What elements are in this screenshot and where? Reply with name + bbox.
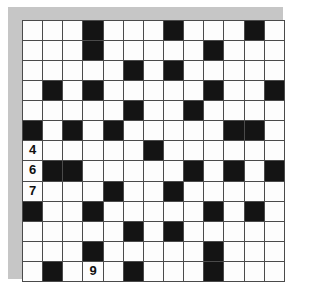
grid-cell-open[interactable] — [103, 61, 123, 81]
grid-cell-open[interactable] — [143, 261, 163, 281]
grid-cell-open[interactable] — [23, 81, 43, 101]
grid-cell-open[interactable] — [244, 181, 264, 201]
grid-cell-open[interactable] — [23, 61, 43, 81]
grid-cell-open[interactable] — [63, 181, 83, 201]
grid-cell-open[interactable] — [103, 221, 123, 241]
grid-cell-open[interactable] — [184, 121, 204, 141]
grid-cell-open[interactable] — [204, 121, 224, 141]
grid-cell-open[interactable] — [224, 81, 244, 101]
grid-cell-open[interactable] — [143, 161, 163, 181]
grid-cell-open[interactable] — [163, 101, 183, 121]
grid-cell-open[interactable] — [184, 141, 204, 161]
grid-cell-open[interactable] — [244, 241, 264, 261]
grid-cell-open[interactable] — [63, 201, 83, 221]
grid-cell-open[interactable] — [264, 21, 284, 41]
grid-cell-open[interactable] — [103, 241, 123, 261]
grid-cell-open[interactable] — [244, 81, 264, 101]
grid-cell-open[interactable] — [63, 41, 83, 61]
grid-cell-open[interactable] — [224, 241, 244, 261]
grid-cell-open[interactable] — [264, 221, 284, 241]
grid-cell-open[interactable] — [264, 41, 284, 61]
grid-cell-open[interactable] — [143, 61, 163, 81]
grid-cell-open[interactable] — [184, 61, 204, 81]
grid-cell-open[interactable] — [123, 81, 143, 101]
grid-cell-open[interactable] — [43, 181, 63, 201]
grid-cell-open[interactable] — [184, 21, 204, 41]
grid-cell-open[interactable] — [204, 61, 224, 81]
grid-cell-open[interactable] — [244, 61, 264, 81]
grid-cell-open[interactable] — [63, 221, 83, 241]
grid-cell-open[interactable] — [83, 181, 103, 201]
grid-cell-open[interactable] — [184, 81, 204, 101]
grid-cell-open[interactable] — [63, 81, 83, 101]
grid-cell-open[interactable] — [123, 141, 143, 161]
grid-cell-open[interactable]: 9 — [83, 261, 103, 281]
grid-cell-open[interactable] — [23, 21, 43, 41]
grid-cell-open[interactable] — [83, 221, 103, 241]
grid-cell-open[interactable] — [224, 141, 244, 161]
grid-cell-open[interactable] — [23, 221, 43, 241]
grid-cell-open[interactable] — [83, 161, 103, 181]
grid-cell-open[interactable] — [123, 41, 143, 61]
grid-cell-open[interactable] — [83, 101, 103, 121]
grid-cell-open[interactable] — [43, 201, 63, 221]
grid-cell-open[interactable] — [123, 161, 143, 181]
grid-cell-open[interactable] — [184, 221, 204, 241]
grid-cell-open[interactable] — [163, 41, 183, 61]
grid-cell-open[interactable] — [244, 221, 264, 241]
grid-cell-open[interactable] — [184, 261, 204, 281]
grid-cell-open[interactable] — [103, 41, 123, 61]
grid-cell-open[interactable] — [143, 21, 163, 41]
grid-cell-open[interactable] — [143, 201, 163, 221]
grid-cell-open[interactable] — [224, 221, 244, 241]
grid-cell-open[interactable] — [264, 121, 284, 141]
grid-cell-open[interactable]: 6 — [23, 161, 43, 181]
grid-cell-open[interactable] — [83, 61, 103, 81]
grid-cell-open[interactable] — [204, 221, 224, 241]
grid-cell-open[interactable] — [264, 241, 284, 261]
grid-cell-open[interactable] — [204, 161, 224, 181]
grid-cell-open[interactable] — [204, 101, 224, 121]
grid-cell-open[interactable] — [143, 241, 163, 261]
grid-cell-open[interactable] — [103, 21, 123, 41]
grid-cell-open[interactable] — [43, 21, 63, 41]
grid-cell-open[interactable] — [224, 61, 244, 81]
crossword-grid-container[interactable]: 4679 — [22, 20, 284, 281]
grid-cell-open[interactable] — [23, 261, 43, 281]
grid-cell-open[interactable] — [23, 101, 43, 121]
grid-cell-open[interactable] — [103, 81, 123, 101]
grid-cell-open[interactable] — [204, 181, 224, 201]
grid-cell-open[interactable] — [264, 181, 284, 201]
grid-cell-open[interactable] — [143, 221, 163, 241]
grid-cell-open[interactable] — [163, 161, 183, 181]
grid-cell-open[interactable] — [123, 21, 143, 41]
grid-cell-open[interactable] — [184, 201, 204, 221]
grid-cell-open[interactable] — [63, 261, 83, 281]
grid-cell-open[interactable] — [143, 181, 163, 201]
grid-cell-open[interactable] — [143, 81, 163, 101]
grid-cell-open[interactable] — [103, 141, 123, 161]
grid-cell-open[interactable] — [103, 261, 123, 281]
grid-cell-open[interactable] — [63, 101, 83, 121]
grid-cell-open[interactable] — [244, 141, 264, 161]
grid-cell-open[interactable] — [123, 201, 143, 221]
grid-cell-open[interactable] — [63, 241, 83, 261]
grid-cell-open[interactable] — [204, 141, 224, 161]
grid-cell-open[interactable] — [63, 61, 83, 81]
grid-cell-open[interactable] — [163, 261, 183, 281]
grid-cell-open[interactable]: 4 — [23, 141, 43, 161]
grid-cell-open[interactable] — [143, 101, 163, 121]
grid-cell-open[interactable] — [184, 241, 204, 261]
grid-cell-open[interactable] — [244, 161, 264, 181]
crossword-grid[interactable]: 4679 — [22, 20, 285, 282]
grid-cell-open[interactable] — [43, 121, 63, 141]
grid-cell-open[interactable] — [224, 21, 244, 41]
grid-cell-open[interactable] — [103, 101, 123, 121]
grid-cell-open[interactable]: 7 — [23, 181, 43, 201]
grid-cell-open[interactable] — [184, 41, 204, 61]
grid-cell-open[interactable] — [163, 81, 183, 101]
grid-cell-open[interactable] — [23, 41, 43, 61]
grid-cell-open[interactable] — [224, 261, 244, 281]
grid-cell-open[interactable] — [103, 161, 123, 181]
grid-cell-open[interactable] — [224, 181, 244, 201]
